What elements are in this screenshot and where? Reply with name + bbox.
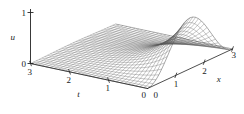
x-axis-label: x: [217, 75, 221, 84]
u-axis-label: u: [11, 33, 16, 42]
x-axis-tick-0: 0: [154, 91, 159, 100]
u-axis-tick-1: 1: [22, 9, 27, 18]
t-axis-tick-0: 0: [142, 91, 147, 100]
u-axis-tick-0: 0: [22, 60, 27, 69]
x-axis-tick-3: 3: [232, 51, 237, 60]
surface-plot-figure: 1 0 u 3 2 1 0 t 0 1 2 3 x: [0, 0, 244, 114]
mesh-wireframe: [31, 17, 233, 89]
t-axis-label: t: [77, 90, 80, 99]
t-axis-tick-2: 2: [67, 76, 72, 85]
surface-mesh-canvas: [0, 0, 244, 114]
x-axis-tick-2: 2: [202, 67, 207, 76]
axis-lines: [28, 10, 233, 89]
x-axis-tick-1: 1: [174, 80, 179, 89]
t-axis-tick-1: 1: [106, 84, 111, 93]
t-axis-tick-3: 3: [28, 68, 33, 77]
